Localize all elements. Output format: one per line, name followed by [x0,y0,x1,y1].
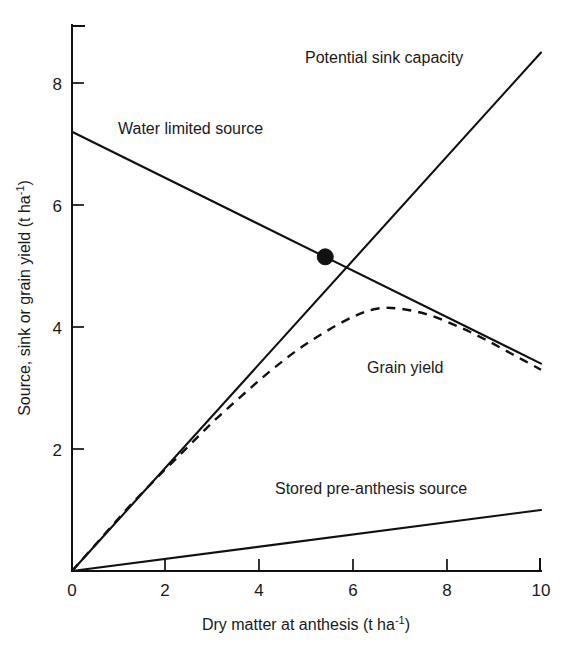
series-line-water-limited-source [72,132,541,364]
annotations-group [317,249,333,265]
x-tick-label-2: 2 [160,581,169,600]
x-axis-title: Dry matter at anthesis (t ha-1) [202,614,410,633]
x-tick-label-6: 6 [348,581,357,600]
series-line-grain-yield [72,308,541,571]
x-axis-title-main: Dry matter at anthesis (t ha [202,616,395,633]
y-tick-label-6: 6 [53,197,62,216]
y-tick-label-8: 8 [53,75,62,94]
intersection-point-marker [317,249,333,265]
x-tick-labels-group: 0 2 4 6 8 10 [67,581,550,600]
y-axis-title-superscript: -1 [14,186,26,196]
chart-canvas: 2 4 6 8 0 2 4 6 8 10 [0,0,568,647]
x-ticks-group [72,559,447,571]
x-axis-title-superscript: -1 [395,614,405,626]
y-tick-labels-group: 2 4 6 8 [53,75,62,460]
y-tick-label-4: 4 [53,319,62,338]
x-axis-title-tail: ) [405,616,410,633]
x-tick-label-8: 8 [442,581,451,600]
series-label-potential-sink-capacity: Potential sink capacity [305,49,463,66]
y-axis-title-main: Source, sink or grain yield (t ha [16,195,33,416]
y-tick-label-2: 2 [53,441,62,460]
y-axis-title: Source, sink or grain yield (t ha-1) [14,180,33,416]
x-tick-label-0: 0 [67,581,76,600]
series-label-grain-yield: Grain yield [367,359,443,376]
series-labels-group: Potential sink capacity Water limited so… [118,49,467,497]
y-axis-title-tail: ) [16,180,33,185]
series-line-stored-pre-anthesis-source [72,510,541,571]
x-tick-label-4: 4 [254,581,263,600]
axis-titles-group: Dry matter at anthesis (t ha-1) Source, … [14,180,410,633]
x-tick-label-10: 10 [532,581,551,600]
series-label-water-limited-source: Water limited source [118,120,263,137]
figure-container: 2 4 6 8 0 2 4 6 8 10 [0,0,568,647]
series-label-stored-pre-anthesis-source: Stored pre-anthesis source [275,480,467,497]
